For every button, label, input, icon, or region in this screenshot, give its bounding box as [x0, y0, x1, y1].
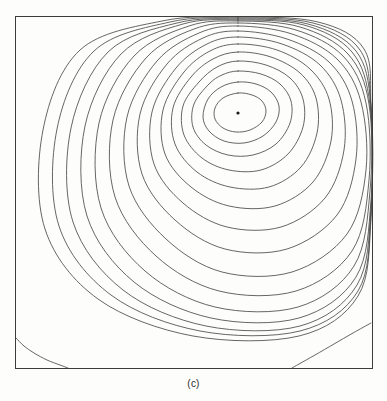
streamline-contour-plot [0, 0, 387, 401]
plot-background [0, 0, 387, 401]
figure-caption: (c) [0, 378, 387, 389]
figure-root: (c) [0, 0, 387, 401]
primary-vortex-center-marker [236, 111, 239, 114]
